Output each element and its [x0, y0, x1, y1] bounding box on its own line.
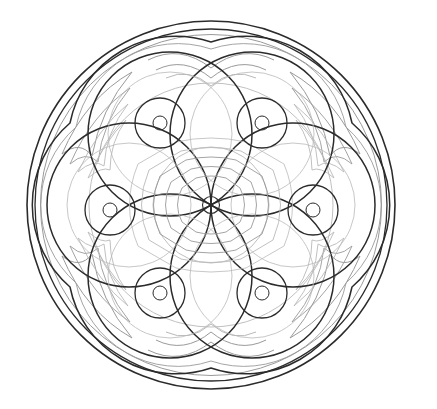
mandala-artwork — [0, 0, 437, 409]
